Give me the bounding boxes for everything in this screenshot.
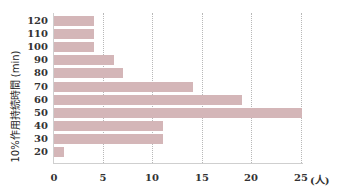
y-tick-80: 80 <box>22 68 48 78</box>
y-tick-30: 30 <box>22 134 48 144</box>
bar-100 <box>54 42 94 52</box>
x-tick-10: 10 <box>145 172 159 183</box>
bar-40 <box>54 121 163 131</box>
gridline-20 <box>251 13 252 163</box>
bar-30 <box>54 134 163 144</box>
bar-60 <box>54 95 242 105</box>
x-tick-5: 5 <box>100 172 107 183</box>
y-tick-90: 90 <box>22 55 48 65</box>
x-tick-25: 25 <box>294 172 308 183</box>
bar-20 <box>54 147 64 157</box>
bar-80 <box>54 68 123 78</box>
y-tick-100: 100 <box>22 42 48 52</box>
bar-120 <box>54 16 94 26</box>
x-tick-20: 20 <box>244 172 258 183</box>
y-tick-70: 70 <box>22 82 48 92</box>
x-tick-15: 15 <box>195 172 209 183</box>
y-tick-20: 20 <box>22 147 48 157</box>
bar-90 <box>54 55 114 65</box>
bar-70 <box>54 82 193 92</box>
y-tick-120: 120 <box>22 16 48 26</box>
bar-110 <box>54 29 94 39</box>
y-tick-60: 60 <box>22 95 48 105</box>
bar-50 <box>54 108 302 118</box>
y-tick-50: 50 <box>22 108 48 118</box>
plot-area <box>53 13 303 163</box>
x-tick-0: 0 <box>51 172 58 183</box>
x-axis-line <box>53 163 303 164</box>
bar-chart: 10%作用持続時間 (min) 120110100908070605040302… <box>0 0 340 192</box>
gridline-15 <box>202 13 203 163</box>
y-axis-label-text: 10%作用持続時間 (min) <box>7 50 22 162</box>
y-tick-110: 110 <box>22 29 48 39</box>
y-axis-label: 10%作用持続時間 (min) <box>4 38 24 174</box>
y-tick-40: 40 <box>22 121 48 131</box>
x-axis-unit: (人) <box>310 172 329 187</box>
gridline-25 <box>301 13 302 163</box>
